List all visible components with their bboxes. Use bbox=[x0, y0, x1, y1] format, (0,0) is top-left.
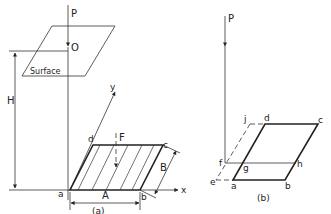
origin-o-label: O bbox=[71, 42, 79, 53]
panel-a: P O Surface H y x bbox=[7, 5, 187, 214]
point-h-label: h bbox=[297, 159, 303, 169]
figure-canvas: P O Surface H y x bbox=[0, 0, 331, 214]
load-p-arrow: P O bbox=[68, 5, 79, 53]
surface-label: Surface bbox=[30, 67, 61, 76]
loaded-area bbox=[70, 145, 163, 190]
point-j-label: j bbox=[243, 114, 247, 124]
x-axis-label: x bbox=[181, 185, 187, 195]
panel-b: P j d c f g h e a b (b) bbox=[210, 13, 323, 203]
corner-d-label: d bbox=[88, 134, 94, 144]
force-f-label: F bbox=[119, 132, 125, 143]
y-axis-label: y bbox=[110, 82, 116, 92]
corner-b-label: b bbox=[141, 192, 147, 202]
width-a-dimension: A bbox=[70, 190, 140, 210]
load-p-label: P bbox=[71, 8, 77, 19]
corner-a-label-b: a bbox=[231, 181, 237, 191]
point-f-label: f bbox=[219, 158, 223, 168]
corner-b-label-b: b bbox=[285, 181, 291, 191]
corner-c-label-b: c bbox=[318, 115, 323, 125]
load-p-arrow-b: P bbox=[225, 13, 234, 163]
panel-a-caption: (a) bbox=[92, 206, 105, 214]
width-a-label: A bbox=[102, 190, 109, 201]
depth-h-label: H bbox=[7, 95, 15, 106]
depth-h-dimension: H bbox=[7, 53, 15, 188]
point-g-label: g bbox=[243, 163, 249, 173]
corner-a-label: a bbox=[58, 189, 64, 199]
panel-b-caption: (b) bbox=[257, 193, 270, 203]
length-b-label: B bbox=[160, 162, 167, 173]
projection-lines bbox=[216, 124, 265, 180]
load-p-label-b: P bbox=[228, 13, 234, 24]
corner-d-label-b: d bbox=[264, 113, 270, 123]
point-e-label: e bbox=[210, 177, 216, 187]
force-f-arrow: F bbox=[116, 132, 125, 167]
